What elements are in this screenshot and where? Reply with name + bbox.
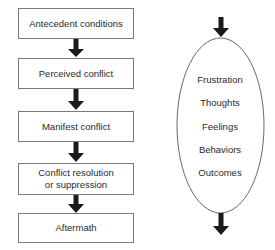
ellipse-item-behaviors: Behaviors	[170, 144, 270, 156]
stage-antecedent-conditions: Antecedent conditions	[18, 8, 134, 39]
ellipse-item-feelings: Feelings	[170, 121, 270, 133]
down-arrow-icon	[66, 89, 86, 111]
stage-label-line-2: or suppression	[45, 179, 107, 191]
ellipse-item-frustration: Frustration	[170, 74, 270, 86]
down-arrow-icon	[66, 142, 86, 163]
down-arrow-icon	[66, 39, 86, 58]
stage-label: Antecedent conditions	[29, 18, 122, 30]
stage-manifest-conflict: Manifest conflict	[18, 111, 134, 142]
down-arrow-icon	[66, 195, 86, 214]
stage-label: Aftermath	[55, 222, 96, 234]
stage-conflict-resolution: Conflict resolution or suppression	[18, 163, 134, 195]
entry-down-arrow-icon	[211, 17, 231, 38]
stage-aftermath: Aftermath	[18, 213, 134, 243]
stage-perceived-conflict: Perceived conflict	[18, 58, 134, 89]
ellipse-item-thoughts: Thoughts	[170, 97, 270, 109]
exit-down-arrow-icon	[211, 213, 231, 236]
stage-label: Perceived conflict	[39, 68, 113, 80]
ellipse-item-outcomes: Outcomes	[170, 167, 270, 179]
stage-label-line-1: Conflict resolution	[38, 167, 114, 179]
stage-label: Manifest conflict	[42, 121, 110, 133]
